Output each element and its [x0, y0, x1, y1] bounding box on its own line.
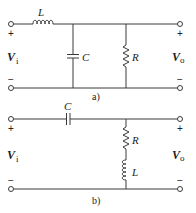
output-a-minus-sign: − — [177, 74, 183, 85]
inductor-a-symbol — [33, 20, 53, 24]
input-b-minus-sign: − — [8, 175, 14, 186]
resistor-a-label: R — [131, 51, 139, 63]
resistor-b-label: R — [131, 134, 139, 146]
inductor-b-symbol — [122, 160, 126, 180]
output-a-plus-sign: + — [177, 28, 183, 39]
terminal-b-out-minus — [178, 187, 183, 192]
caption-b: b) — [92, 195, 100, 207]
circuit-a: L C R + − + − Vi Vo a) — [7, 6, 185, 103]
input-a-voltage-label: Vi — [7, 50, 19, 66]
input-b-voltage-label: Vi — [7, 148, 19, 164]
terminal-a-out-plus — [178, 22, 183, 27]
input-a-minus-sign: − — [8, 74, 14, 85]
input-a-plus-sign: + — [8, 28, 14, 39]
output-b-voltage-label: Vo — [172, 148, 185, 163]
terminal-b-in-minus — [9, 187, 14, 192]
caption-a: a) — [92, 91, 100, 103]
output-b-minus-sign: − — [177, 175, 183, 186]
output-b-plus-sign: + — [177, 123, 183, 134]
terminal-a-in-plus — [9, 22, 14, 27]
terminal-a-in-minus — [9, 86, 14, 91]
resistor-b-symbol — [123, 127, 129, 149]
input-b-plus-sign: + — [8, 123, 14, 134]
circuit-diagrams: L C R + − + − Vi Vo a) C R L + — [0, 0, 196, 213]
resistor-a-symbol — [123, 45, 129, 67]
terminal-a-out-minus — [178, 86, 183, 91]
inductor-b-label: L — [131, 166, 138, 178]
capacitor-a-label: C — [82, 51, 90, 63]
circuit-b: C R L + − + − Vi Vo b) — [7, 100, 185, 207]
terminal-b-out-plus — [178, 117, 183, 122]
inductor-a-label: L — [37, 6, 44, 18]
capacitor-b-label: C — [64, 100, 72, 112]
terminal-b-in-plus — [9, 117, 14, 122]
output-a-voltage-label: Vo — [172, 50, 185, 65]
